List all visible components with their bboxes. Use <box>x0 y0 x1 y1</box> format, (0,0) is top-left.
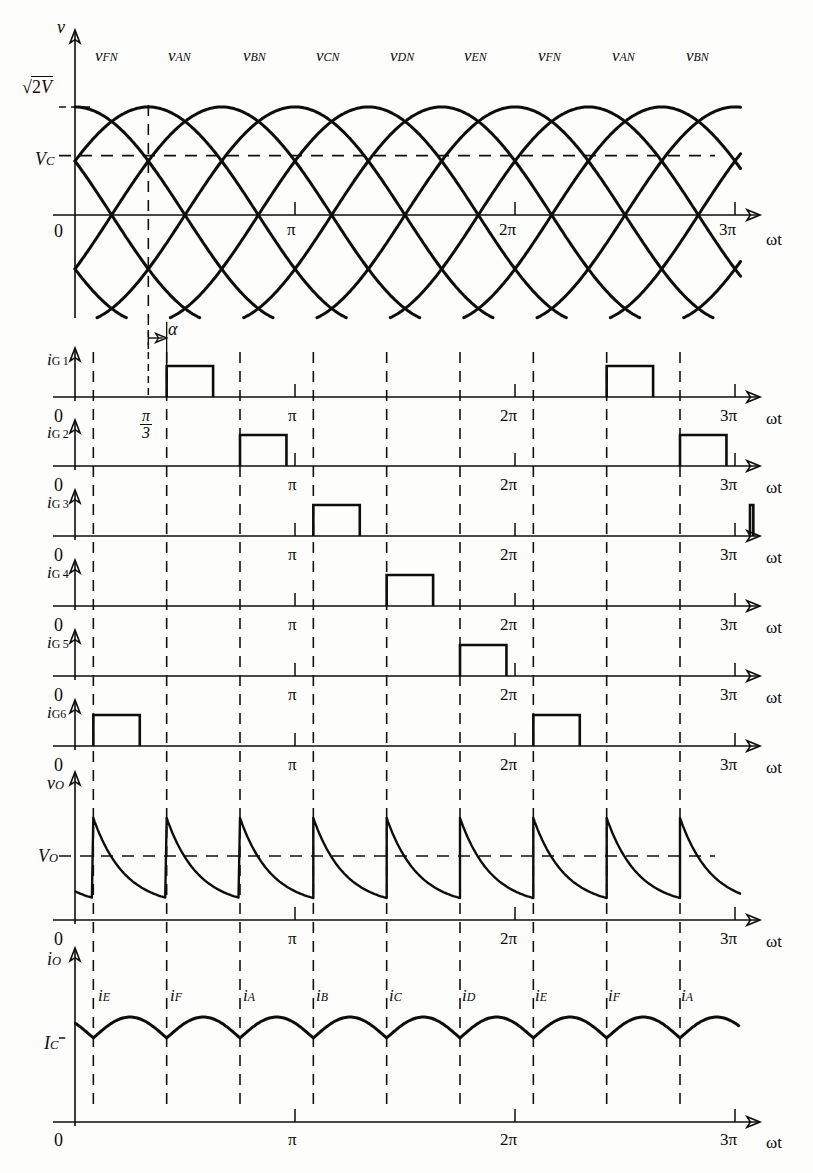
io-level-label: IC <box>44 1034 58 1052</box>
ig5-tick-pi: π <box>288 686 297 703</box>
io-tick-pi: π <box>288 1131 297 1148</box>
ig6-tick-pi: π <box>288 756 297 773</box>
supply-voltage-axis-label: v <box>57 18 65 36</box>
phase-label-2: vBN <box>243 47 266 64</box>
alpha-label: α <box>168 320 177 338</box>
ig3-omega-t-label: ωt <box>766 549 782 566</box>
ig3-tick-2pi: 2π <box>500 546 517 563</box>
ig5-pulse-1 <box>460 645 506 676</box>
io-segment-label-7: iF <box>608 987 620 1004</box>
vo-waveform <box>76 818 740 898</box>
ig2-tick-pi: π <box>288 476 297 493</box>
ig1-omega-t-label: ωt <box>766 410 782 427</box>
supply-tick-3pi: 3π <box>719 221 736 238</box>
ig6-pulse-0 <box>93 715 139 746</box>
io-segment-label-1: iF <box>170 987 182 1004</box>
ig2-axis-label: iG 2 <box>47 424 69 441</box>
supply-tick-pi: π <box>287 221 296 238</box>
ig3-tick-3pi: 3π <box>720 546 737 563</box>
ig3-pulse-1 <box>750 505 753 536</box>
vo-tick-pi: π <box>288 930 297 947</box>
pi-over-3-label: π3 <box>140 408 152 442</box>
ig4-zero-label: 0 <box>54 616 63 634</box>
io-segment-label-3: iB <box>316 987 328 1004</box>
ig1-pulse-0 <box>167 366 213 397</box>
supply-zero-label: 0 <box>54 222 63 240</box>
ig5-omega-t-label: ωt <box>766 689 782 706</box>
waveform-figure: v √2V VC 0 ωt π 2π 3π vFN vAN vBN vCN vD… <box>0 0 813 1173</box>
ig5-tick-2pi: 2π <box>500 686 517 703</box>
phase-label-5: vEN <box>464 47 487 64</box>
phase-label-1: vAN <box>168 47 191 64</box>
ig1-tick-2pi: 2π <box>500 407 517 424</box>
phase-label-7: vAN <box>612 47 635 64</box>
phase-label-6: vFN <box>538 47 561 64</box>
ig6-zero-label: 0 <box>54 756 63 774</box>
ig6-tick-3pi: 3π <box>720 756 737 773</box>
io-omega-t-label: ωt <box>766 1134 782 1151</box>
vc-level-label: VC <box>35 150 54 168</box>
supply-phase-curve-v_fn <box>75 107 713 318</box>
ig2-omega-t-label: ωt <box>766 479 782 496</box>
supply-tick-2pi: 2π <box>499 221 516 238</box>
ig4-axis-label: iG 4 <box>47 564 69 581</box>
io-waveform <box>76 1017 739 1038</box>
ig2-tick-2pi: 2π <box>500 476 517 493</box>
ig4-tick-3pi: 3π <box>720 616 737 633</box>
ig6-pulse-1 <box>533 715 579 746</box>
ig2-tick-3pi: 3π <box>720 476 737 493</box>
io-segment-label-8: iA <box>681 987 693 1004</box>
ig3-zero-label: 0 <box>54 546 63 564</box>
io-tick-2pi: 2π <box>500 1131 517 1148</box>
ig1-axis-label: iG 1 <box>47 351 69 368</box>
io-segment-label-0: iE <box>98 987 110 1004</box>
ig1-pulse-1 <box>607 366 653 397</box>
ig2-pulse-0 <box>240 435 286 466</box>
phase-label-0: vFN <box>95 47 118 64</box>
ig6-axis-label: iG6 <box>47 704 66 721</box>
ig6-tick-2pi: 2π <box>500 756 517 773</box>
ig1-tick-pi: π <box>288 407 297 424</box>
io-zero-label: 0 <box>54 1131 63 1149</box>
ig4-omega-t-label: ωt <box>766 619 782 636</box>
phase-label-8: vBN <box>686 47 709 64</box>
io-segment-label-4: iC <box>389 987 402 1004</box>
vo-mean-level-label: VO <box>38 847 58 865</box>
ig2-pulse-1 <box>680 435 726 466</box>
ig4-tick-pi: π <box>288 616 297 633</box>
ig5-zero-label: 0 <box>54 686 63 704</box>
io-tick-3pi: 3π <box>720 1131 737 1148</box>
ig2-zero-label: 0 <box>54 476 63 494</box>
ig4-pulse-0 <box>387 575 433 606</box>
ig3-pulse-0 <box>313 505 359 536</box>
ig6-omega-t-label: ωt <box>766 759 782 776</box>
phase-label-4: vDN <box>390 47 414 64</box>
ig4-tick-2pi: 2π <box>500 616 517 633</box>
vo-tick-2pi: 2π <box>500 930 517 947</box>
io-segment-label-6: iE <box>535 987 547 1004</box>
io-segment-label-2: iA <box>243 987 255 1004</box>
vo-tick-3pi: 3π <box>720 930 737 947</box>
ig5-tick-3pi: 3π <box>720 686 737 703</box>
sqrt2v-level-label: √2V <box>22 78 53 96</box>
phase-label-3: vCN <box>316 47 339 64</box>
ig5-axis-label: iG 5 <box>47 634 69 651</box>
vo-axis-label: vO <box>47 774 64 792</box>
ig1-zero-label: 0 <box>54 407 63 425</box>
ig3-axis-label: iG 3 <box>47 494 69 511</box>
vo-omega-t-label: ωt <box>766 933 782 950</box>
ig1-tick-3pi: 3π <box>720 407 737 424</box>
io-segment-label-5: iD <box>462 987 475 1004</box>
ig3-tick-pi: π <box>288 546 297 563</box>
supply-omega-t-label: ωt <box>766 231 782 248</box>
vo-zero-label: 0 <box>54 930 63 948</box>
io-axis-label: iO <box>47 950 61 968</box>
